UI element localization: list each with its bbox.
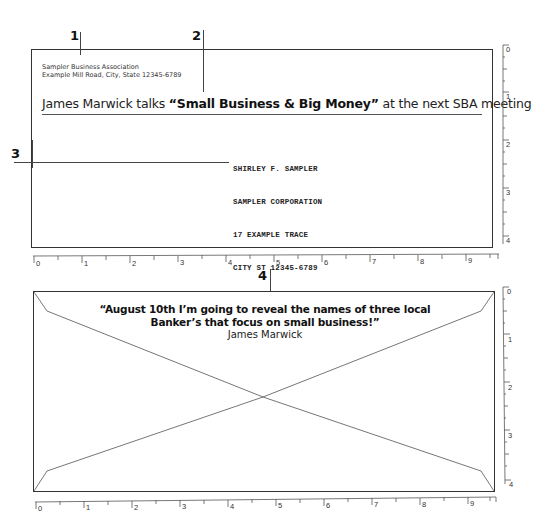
hruler-bottom-label-9: 9	[470, 499, 474, 508]
horizontal-ruler-top	[33, 254, 499, 263]
vruler-top-label-4: 4	[506, 236, 510, 245]
hruler-top-label-3: 3	[180, 258, 184, 267]
hruler-top-label-0: 0	[36, 259, 40, 268]
hruler-top-label-4: 4	[228, 258, 232, 267]
vruler-bottom-label-3: 3	[508, 431, 512, 440]
hruler-bottom-label-6: 6	[326, 501, 330, 510]
hruler-bottom-label-7: 7	[374, 500, 378, 509]
hruler-top-label-9: 9	[468, 256, 472, 265]
hruler-top-label-8: 8	[420, 257, 424, 266]
hruler-bottom-label-4: 4	[230, 502, 234, 511]
vruler-top-label-1: 1	[506, 92, 510, 101]
vruler-bottom-label-2: 2	[508, 383, 512, 392]
vruler-bottom-label-0: 0	[507, 287, 511, 296]
hruler-bottom-label-1: 1	[86, 503, 90, 512]
hruler-bottom-label-8: 8	[422, 500, 426, 509]
hruler-bottom-label-0: 0	[38, 504, 42, 513]
hruler-top-label-2: 2	[132, 259, 136, 268]
hruler-top-label-7: 7	[372, 257, 376, 266]
vruler-top-label-3: 3	[506, 188, 510, 197]
hruler-top-label-6: 6	[324, 258, 328, 267]
vruler-top-label-2: 2	[506, 140, 510, 149]
hruler-bottom-label-2: 2	[134, 503, 138, 512]
hruler-top-label-5: 5	[276, 258, 280, 267]
horizontal-ruler-bottom	[35, 497, 496, 509]
hruler-bottom-label-5: 5	[278, 501, 282, 510]
hruler-top-label-1: 1	[84, 259, 88, 268]
rulers: 0 1 2 3 4 0 1 2 3 4 5 6 7 8 9	[0, 0, 536, 530]
hruler-bottom-label-3: 3	[182, 502, 186, 511]
vruler-top-label-0: 0	[506, 45, 510, 54]
vruler-bottom-label-1: 1	[508, 335, 512, 344]
vruler-bottom-label-4: 4	[509, 480, 513, 489]
